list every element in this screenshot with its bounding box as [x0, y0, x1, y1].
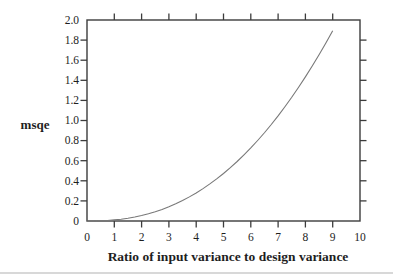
y-tick-label: 0.8: [65, 134, 80, 146]
y-tick-label: 0.4: [65, 175, 80, 187]
y-tick-label: 0: [73, 215, 79, 227]
x-tick-label: 10: [354, 231, 366, 243]
axis-tick-labels: 01234567891000.20.40.60.81.01.21.41.61.8…: [65, 14, 366, 243]
y-tick-label: 1.8: [65, 34, 80, 46]
y-tick-label: 1.0: [65, 114, 80, 126]
y-tick-label: 2.0: [65, 14, 80, 26]
x-tick-label: 9: [330, 231, 336, 243]
y-tick-label: 1.6: [65, 54, 80, 66]
x-tick-label: 5: [221, 231, 227, 243]
x-tick-label: 1: [111, 231, 117, 243]
msqe-line-chart: 01234567891000.20.40.60.81.01.21.41.61.8…: [0, 0, 393, 279]
x-tick-label: 0: [84, 231, 90, 243]
axis-tick-marks: [81, 14, 367, 228]
x-axis-title: Ratio of input variance to design varian…: [108, 249, 349, 264]
x-tick-label: 6: [248, 231, 254, 243]
y-tick-label: 0.2: [65, 195, 80, 207]
x-tick-label: 3: [166, 231, 172, 243]
msqe-curve: [87, 31, 333, 221]
page-bottom-rule-divider: [0, 272, 393, 274]
y-tick-label: 1.2: [65, 94, 80, 106]
x-tick-label: 4: [193, 231, 199, 243]
y-axis-title: msqe: [21, 117, 50, 132]
plot-frame: [87, 20, 360, 221]
x-tick-label: 8: [303, 231, 309, 243]
x-tick-label: 2: [139, 231, 145, 243]
x-tick-label: 7: [275, 231, 281, 243]
scanned-figure-page: 01234567891000.20.40.60.81.01.21.41.61.8…: [0, 0, 393, 279]
y-tick-label: 0.6: [65, 155, 80, 167]
y-tick-label: 1.4: [65, 74, 80, 86]
